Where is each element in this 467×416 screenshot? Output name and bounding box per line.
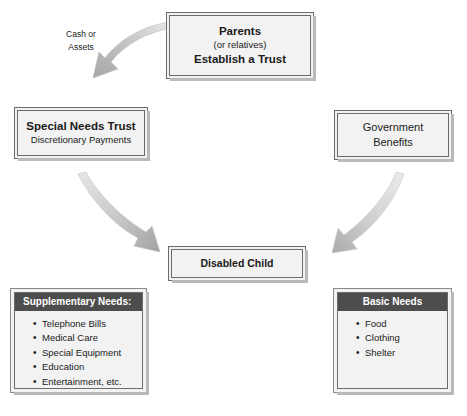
government-benefits-inner: Government Benefits (337, 113, 449, 157)
supplementary-needs-shadow-right (146, 292, 149, 395)
parents-box-shadow-right (313, 16, 316, 81)
arrow-benefits-to-child (330, 172, 410, 262)
list-item: Education (33, 360, 142, 374)
government-benefits-shadow-bottom (338, 159, 454, 162)
basic-needs-panel[interactable]: Basic Needs Food Clothing Shelter (333, 288, 452, 393)
supplementary-needs-list: Telephone Bills Medical Care Special Equ… (15, 311, 142, 389)
government-benefits-shadow-right (451, 114, 454, 162)
special-needs-trust-shadow-bottom (18, 158, 150, 161)
disabled-child-box[interactable]: Disabled Child (168, 246, 306, 281)
list-item: Entertainment, etc. (33, 375, 142, 389)
special-needs-trust-box[interactable]: Special Needs Trust Discretionary Paymen… (14, 107, 148, 159)
special-needs-trust-inner: Special Needs Trust Discretionary Paymen… (17, 110, 145, 156)
parents-line-2: (or relatives) (214, 39, 267, 52)
supplementary-needs-shadow-bottom (14, 392, 149, 395)
basic-needs-shadow-bottom (337, 392, 454, 395)
special-needs-trust-line-1: Special Needs Trust (26, 119, 135, 134)
list-item: Telephone Bills (33, 317, 142, 331)
parents-box[interactable]: Parents (or relatives) Establish a Trust (166, 12, 314, 79)
supplementary-needs-header: Supplementary Needs: (15, 293, 142, 311)
parents-line-3: Establish a Trust (194, 52, 286, 67)
disabled-child-line-1: Disabled Child (201, 257, 274, 271)
disabled-child-shadow-right (305, 250, 308, 283)
list-item: Medical Care (33, 331, 142, 345)
list-item: Shelter (356, 346, 447, 360)
arrow-trust-to-child (76, 172, 171, 262)
list-item: Special Equipment (33, 346, 142, 360)
basic-needs-header: Basic Needs (338, 293, 447, 311)
government-benefits-line-1: Government (363, 120, 424, 135)
supplementary-needs-body: Supplementary Needs: Telephone Bills Med… (14, 292, 143, 389)
special-needs-trust-shadow-right (147, 111, 150, 161)
basic-needs-list: Food Clothing Shelter (338, 311, 447, 388)
diagram-canvas: Cash or Assets Parents (or relatives) Es… (0, 0, 467, 416)
cash-or-assets-line1: Cash or (46, 28, 116, 41)
basic-needs-shadow-right (451, 292, 454, 395)
supplementary-needs-panel[interactable]: Supplementary Needs: Telephone Bills Med… (10, 288, 147, 393)
list-item: Food (356, 317, 447, 331)
basic-needs-body: Basic Needs Food Clothing Shelter (337, 292, 448, 389)
government-benefits-box[interactable]: Government Benefits (334, 110, 452, 160)
disabled-child-shadow-bottom (172, 280, 308, 283)
cash-or-assets-label: Cash or Assets (46, 28, 116, 54)
disabled-child-inner: Disabled Child (171, 249, 303, 278)
parents-box-shadow-bottom (170, 78, 316, 81)
special-needs-trust-line-2: Discretionary Payments (31, 134, 131, 147)
cash-or-assets-line2: Assets (46, 41, 116, 54)
parents-box-inner: Parents (or relatives) Establish a Trust (169, 15, 311, 76)
government-benefits-line-2: Benefits (373, 135, 413, 150)
parents-line-1: Parents (219, 24, 261, 39)
list-item: Clothing (356, 331, 447, 345)
